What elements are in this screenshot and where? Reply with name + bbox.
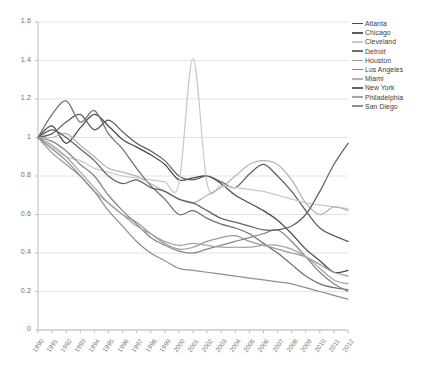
legend-swatch-icon [352,96,363,98]
legend-item-new-york[interactable]: New York [352,83,422,92]
legend-swatch-icon [352,87,363,89]
legend-item-houston[interactable]: Houston [352,56,422,65]
legend-item-label: New York [365,83,395,92]
legend-swatch-icon [352,50,363,52]
legend-item-label: San Diego [365,102,398,111]
y-tick-label: 1.4 [5,56,31,63]
legend-swatch-icon [352,105,363,107]
legend-swatch-icon [352,23,363,25]
chart-legend: AtlantaChicagoClevelandDetroitHoustonLos… [352,19,422,111]
series-line-atlanta [38,114,348,272]
legend-item-detroit[interactable]: Detroit [352,47,422,56]
data-series-group [38,59,348,300]
legend-item-label: Detroit [365,47,386,56]
y-tick-label: 0.2 [5,287,31,294]
y-tick-label: 0 [5,325,31,332]
series-line-houston [38,138,348,277]
y-tick-label: 1 [5,133,31,140]
line-chart: 1.61.41.210.80.60.40.20 1990199119921993… [0,0,423,369]
y-tick-label: 0.8 [5,171,31,178]
legend-item-label: Philadelphia [365,93,403,102]
legend-swatch-icon [352,78,363,80]
legend-item-label: Cleveland [365,37,396,46]
legend-item-san-diego[interactable]: San Diego [352,102,422,111]
legend-item-chicago[interactable]: Chicago [352,28,422,37]
legend-item-label: Miami [365,74,384,83]
legend-item-label: Chicago [365,28,391,37]
legend-item-los-angeles[interactable]: Los Angeles [352,65,422,74]
legend-item-label: Los Angeles [365,65,403,74]
y-tick-label: 0.6 [5,210,31,217]
legend-swatch-icon [352,32,363,34]
y-tick-label: 0.4 [5,248,31,255]
legend-swatch-icon [352,69,363,71]
legend-item-label: Houston [365,56,391,65]
y-tick-label: 1.2 [5,94,31,101]
legend-item-atlanta[interactable]: Atlanta [352,19,422,28]
legend-swatch-icon [352,41,363,43]
legend-swatch-icon [352,60,363,62]
legend-item-philadelphia[interactable]: Philadelphia [352,93,422,102]
legend-item-label: Atlanta [365,19,387,28]
series-line-detroit [38,101,348,290]
legend-item-miami[interactable]: Miami [352,74,422,83]
legend-item-cleveland[interactable]: Cleveland [352,37,422,46]
series-line-cleveland [38,59,348,209]
y-tick-label: 1.6 [5,17,31,24]
